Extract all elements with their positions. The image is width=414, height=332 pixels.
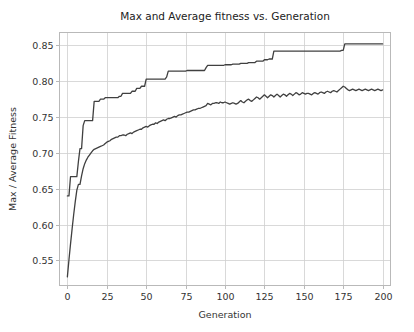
y-tick-label: 0.80	[32, 76, 53, 87]
x-tick-label: 125	[255, 291, 273, 302]
x-tick-label: 0	[64, 291, 70, 302]
y-tick-label: 0.65	[32, 184, 53, 195]
x-tick-label: 50	[140, 291, 152, 302]
x-tick-label: 25	[101, 291, 113, 302]
y-tick-label: 0.60	[32, 220, 53, 231]
line-chart: 0255075100125150175200 0.550.600.650.700…	[0, 0, 414, 332]
x-tick-label: 175	[334, 291, 352, 302]
x-tick-label: 100	[216, 291, 234, 302]
x-tick-label: 75	[180, 291, 192, 302]
plot-area-background	[60, 33, 391, 286]
y-tick-label: 0.75	[32, 112, 53, 123]
y-tick-label: 0.55	[32, 255, 53, 266]
chart-title: Max and Average fitness vs. Generation	[120, 10, 330, 22]
x-axis-title: Generation	[199, 309, 252, 320]
x-tick-label: 150	[295, 291, 313, 302]
figure-container: 0255075100125150175200 0.550.600.650.700…	[0, 0, 414, 332]
y-axis-title: Max / Average Fitness	[7, 107, 18, 211]
y-tick-label: 0.85	[32, 40, 53, 51]
x-tick-label: 200	[374, 291, 392, 302]
y-tick-label: 0.70	[32, 148, 53, 159]
